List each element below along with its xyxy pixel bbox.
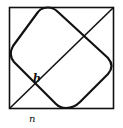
diagonal-line (10, 8, 114, 109)
label-n: n (29, 113, 35, 124)
geometric-diagram: b n (0, 0, 123, 128)
label-b: b (33, 72, 41, 85)
